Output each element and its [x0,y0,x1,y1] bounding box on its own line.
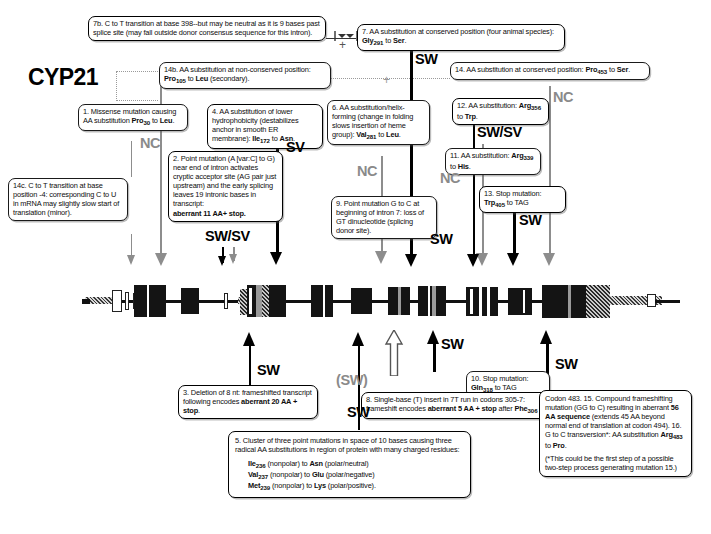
cyp21-mutation-diagram: CYP21 + 7b. C to T transition at base 39… [0,0,711,534]
exon-10 [542,285,588,318]
tag-nc-14b: NC [140,135,160,151]
exon-5 [351,288,372,314]
tag-nc-box6: NC [357,163,377,179]
tag-swsv-box2: SW/SV [205,228,250,244]
callout-15[interactable]: Codon 483. 15. Compound frameshifting mu… [539,390,692,477]
arrowhead-box13 [507,253,519,266]
callout-14c[interactable]: 14c. C to T transition at base position … [8,178,128,221]
connector-box13-sw [513,208,516,258]
callout-7-residue-from: Gly [362,36,373,45]
arrowhead-box4 [270,252,282,265]
callout-15-text: Codon 483. 15. Compound frameshifting mu… [545,394,673,412]
callout-14c-text: 14c. C to T transition at base position … [13,181,119,217]
tag-sw-box13: SW [519,212,542,228]
tag-sw-box15: SW [555,356,578,372]
exon-1 [134,285,166,317]
callout-7b[interactable]: 7b. C to T transition at base 398--but m… [88,16,326,41]
callout-14-text: 14. AA substitution at conserved positio… [455,65,585,74]
callout-1[interactable]: 1. Missense mutation causing AA substitu… [78,104,188,131]
arrowhead-box8-hollow [384,330,404,380]
callout-7[interactable]: 7. AA substitution at conserved position… [357,24,565,51]
callout-2-text: 2. Point mutation (A [var:C] to G) near … [173,154,276,208]
callout-7b-text: 7b. C to T transition at base 398--but m… [93,19,320,37]
arrowhead-box7 [405,254,417,267]
tag-sw-box5: SW [347,404,370,420]
exon-10-3utr-hatch [586,285,610,318]
callout-5[interactable]: 5. Cluster of three point mutations in s… [228,431,471,498]
callout-12-text: 12. AA substitution: [457,101,519,110]
callout-3[interactable]: 3. Deletion of 8 nt: frameshifted transc… [178,385,318,419]
dotted-connector-down [116,71,117,101]
utr-box-1 [112,290,122,312]
exon-3-divider [249,288,252,314]
plus-symbol-upper: + [339,38,346,52]
callout-9-text: 9. Point mutation G to C at beginning of… [336,199,424,235]
callout-11-text: 11. AA substitution: [450,151,511,160]
arrowhead-box2-sw [218,256,226,266]
callout-2-result: aberrant 11 AA+ stop. [173,209,246,218]
arrowhead-box2-sv [229,254,237,264]
arrowhead-box15-up [540,330,552,344]
dotted-connector-14b-left [116,71,160,72]
exon-3b [269,285,286,317]
callout-12[interactable]: 12. AA substitution: Arg356 to Trp. [452,98,549,125]
tag-sv-box4: SV [286,139,305,155]
callout-5-row-0: Ile236 (nonpolar) to Asn (polar/neutral) [235,459,464,470]
callout-5-row-1: Val237 (nonpolar) to Glu (polar/negative… [235,470,464,481]
callout-8[interactable]: 8. Single-base (T) insert in 7T run in c… [361,392,557,419]
arrowhead-box12-sw [467,254,479,267]
callout-10-text: 10. Stop mutation: [471,374,528,383]
exon-9-divider [523,290,525,313]
tag-sw-box9: SW [430,231,453,247]
exon-6-grey [398,287,401,315]
tag-sw-paren-box8: (SW) [336,372,367,388]
callout-7-text: 7. AA substitution at conserved position… [362,27,554,36]
exon-1-divider [147,285,149,317]
plus-symbol-lower: + [383,73,390,87]
exon-4 [311,285,333,317]
exon-8-divider-c [487,287,490,316]
connector-box12-sw [473,122,475,258]
exon-8-divider-a [470,289,473,314]
callout-9[interactable]: 9. Point mutation G to C at beginning of… [331,196,437,239]
gene-structure-track [0,276,711,328]
utr-box-2 [125,292,129,310]
callout-7-position: 291 [373,39,383,46]
exon-9 [508,288,532,315]
tag-sw-box7: SW [415,51,438,67]
callout-13[interactable]: 13. Stop mutation: Trp405 to TAG [479,186,566,213]
exon-10-grey-bar [568,285,571,318]
exon-8-divider-b [479,287,482,316]
page-title: CYP21 [28,64,98,91]
tail-line-right [655,300,680,303]
arrowhead-box3-up [243,332,255,346]
intron-marker-1 [224,293,228,309]
callout-6[interactable]: 6. AA substitution/helix-forming (change… [327,100,430,145]
connector-box1-down [131,141,132,177]
dotted-connector-to-box1 [116,100,158,101]
arrowhead-box14 [543,253,555,266]
connector-box14-nc [549,86,551,258]
callout-7-residue-to: Ser [393,36,404,45]
arrowhead-14b [155,253,167,266]
callout-14b-text: 14b. AA substitution at non-conserved po… [164,65,311,74]
tag-sw-box10: SW [441,336,464,352]
callout-14[interactable]: 14. AA substitution at conserved positio… [450,62,650,80]
promoter-cap-left [82,299,90,304]
callout-4[interactable]: 4. AA substitution of lower hydrophobici… [207,104,323,149]
exon-7-grey [432,286,436,316]
tag-swsv-box12: SW/SV [477,124,522,140]
connector-box10-up [433,342,436,372]
exon-4-divider [323,285,325,317]
arrowhead-box10-up [427,330,439,344]
arrowhead-box6 [375,251,387,264]
callout-14b[interactable]: 14b. AA substitution at non-conserved po… [159,62,331,89]
arrowhead-14c [127,255,135,265]
arrowhead-box5-up [352,332,364,346]
callout-8-result: aberrant 5 AA + stop [428,404,497,413]
callout-15-footnote: (*This could be the first step of a poss… [545,454,677,472]
tag-nc-box11: NC [440,170,460,186]
callout-2[interactable]: 2. Point mutation (A [var:C] to G) near … [168,151,283,222]
callout-5-row-2: Met239 (nonpolar) to Lys (polar/positive… [235,481,464,492]
tag-nc-box14: NC [553,89,573,105]
